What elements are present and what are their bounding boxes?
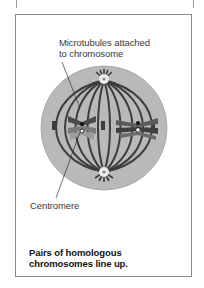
- equator-mark-center: [101, 121, 105, 130]
- equator-mark-left: [52, 121, 56, 130]
- centromere-label: Centromere: [30, 200, 79, 211]
- microtubules-label: Microtubules attached to chromosome: [59, 37, 150, 59]
- figure-caption: Pairs of homologous chromosomes line up.: [29, 247, 128, 269]
